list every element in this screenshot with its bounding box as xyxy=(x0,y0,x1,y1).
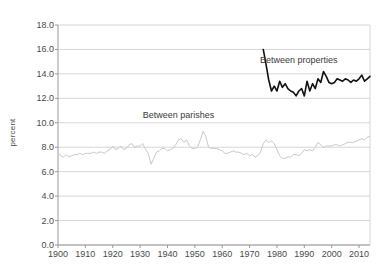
plot-area xyxy=(0,0,386,277)
between-properties-label: Between properties xyxy=(260,55,338,65)
chart-container: percent 0.02.04.06.08.010.012.014.016.01… xyxy=(0,0,386,277)
series-line-between-parishes xyxy=(58,131,370,164)
between-parishes-label: Between parishes xyxy=(143,110,215,120)
